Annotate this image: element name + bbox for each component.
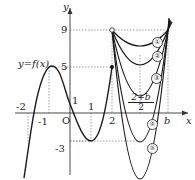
- x-tick-neg1: -1: [38, 117, 48, 127]
- curve-label-4: ④: [147, 119, 158, 130]
- x-axis-label: x: [186, 116, 192, 126]
- x-tick-b: b: [164, 116, 170, 126]
- curve-label-3: ③: [151, 73, 162, 84]
- open-point: [110, 28, 115, 33]
- x-tick-2: 2: [109, 116, 115, 126]
- y-tick-1: 1: [72, 96, 78, 106]
- curve-label-5: ⑤: [147, 143, 158, 154]
- curve-label-1: ①: [152, 37, 163, 48]
- y-tick-neg3: -3: [55, 144, 65, 154]
- function-label: y=f(x): [18, 59, 49, 69]
- graph-canvas: [0, 0, 195, 180]
- axes: [15, 8, 188, 175]
- x-tick-neg2: -2: [16, 102, 26, 112]
- origin-label: O: [62, 116, 70, 126]
- graph-figure: y x O 9 5 1 -3 -2 -1 1 2 b y=f(x) 2+b 2 …: [0, 0, 195, 180]
- y-tick-9: 9: [61, 25, 67, 35]
- midpoint-label: 2+b 2: [128, 93, 154, 112]
- y-axis-label: y: [63, 2, 69, 12]
- filled-point: [110, 65, 114, 69]
- y-tick-5: 5: [61, 62, 67, 72]
- x-tick-1: 1: [88, 102, 94, 112]
- curve-label-2: ②: [152, 51, 163, 62]
